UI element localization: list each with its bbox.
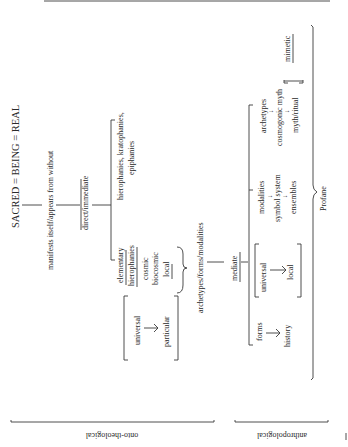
myth-ritual-label: myth/ritual bbox=[291, 97, 300, 133]
anthropological-label: anthropological bbox=[256, 431, 307, 440]
manifests-label: manifests itself/appears from without bbox=[46, 150, 55, 270]
profane-brace bbox=[311, 25, 317, 380]
profane-label: Profane bbox=[319, 186, 328, 211]
diagram-canvas: SACRED = BEING = REAL manifests itself/a… bbox=[0, 0, 348, 447]
local-label: local bbox=[162, 261, 171, 277]
particular-label: particular bbox=[162, 316, 171, 347]
direct-label: direct/immediate bbox=[81, 175, 90, 230]
hierophanies-label: hierophanies, kratophanies, bbox=[116, 112, 125, 200]
mediate-label: mediate bbox=[230, 255, 239, 281]
forms-label: forms bbox=[255, 322, 264, 341]
ensembles-label: ensembles bbox=[289, 181, 298, 214]
history-label: history bbox=[283, 325, 292, 347]
elementary-label: elementary bbox=[116, 247, 125, 283]
curly-brace bbox=[177, 247, 187, 293]
epiphanies-label: epiphanies bbox=[127, 141, 136, 175]
univ-local-bracket-right bbox=[297, 244, 301, 297]
modalities-label: modalities bbox=[257, 181, 266, 214]
cosmogonic-myth-label: cosmogonic myth bbox=[275, 89, 284, 146]
hierophanies-elem-label: hierophanies bbox=[127, 245, 136, 286]
onto-theological-bracket bbox=[11, 420, 214, 422]
arrow-icon: ↓ bbox=[283, 110, 290, 113]
archetypes-label: archetypes bbox=[259, 99, 268, 133]
local-med-label: local bbox=[286, 264, 295, 280]
biocosmic-label: biocosmic bbox=[151, 252, 160, 285]
anthropological-bracket bbox=[235, 420, 328, 422]
cosmic-label: cosmic bbox=[141, 257, 150, 280]
onto-theological-label: onto-theological bbox=[85, 431, 138, 440]
univ-part-bracket-right bbox=[174, 296, 178, 360]
univ-part-bracket-left bbox=[124, 296, 128, 360]
universal-label: universal bbox=[133, 315, 142, 345]
archetypes-forms-label: archetypes/forms/modalities bbox=[196, 222, 205, 313]
arrow-icon: ↓ bbox=[281, 195, 288, 198]
universal-med-label: universal bbox=[259, 262, 268, 292]
mimetic-bracket bbox=[299, 80, 303, 83]
mimetic-label: mimetic bbox=[283, 35, 292, 62]
arrow-icon: ↓ bbox=[267, 110, 274, 113]
arrow-icon: ↓ bbox=[266, 195, 273, 198]
root-label: SACRED = BEING = REAL bbox=[10, 105, 21, 228]
